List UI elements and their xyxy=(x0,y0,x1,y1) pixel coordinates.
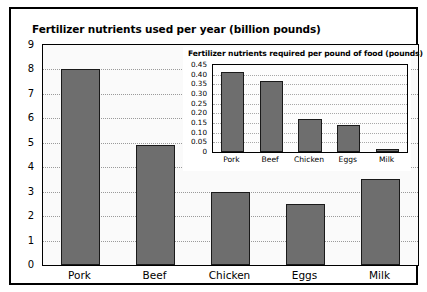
y-axis-tick-label: 2 xyxy=(28,210,34,221)
y-axis-tick-label: 0 xyxy=(28,259,34,270)
x-axis-tick-label: Eggs xyxy=(339,155,357,164)
inset-chart: Fertilizer nutrients required per pound … xyxy=(183,47,411,171)
y-axis-tick-label: 0.15 xyxy=(191,118,207,127)
y-axis-tick-label: 6 xyxy=(28,112,34,123)
y-axis-tick-label: 0.45 xyxy=(191,60,207,69)
main-x-axis: PorkBeefChickenEggsMilk xyxy=(42,269,419,287)
bar xyxy=(337,125,360,152)
y-axis-tick-label: 0.05 xyxy=(191,137,207,146)
y-axis-tick-label: 3 xyxy=(28,185,34,196)
inset-chart-title: Fertilizer nutrients required per pound … xyxy=(188,49,423,58)
y-axis-tick-label: 0.40 xyxy=(191,69,207,78)
y-axis-tick-label: 0.30 xyxy=(191,89,207,98)
y-axis-tick-label: 9 xyxy=(28,39,34,50)
bar xyxy=(286,204,325,265)
inset-plot-area xyxy=(212,64,408,153)
y-axis-tick-label: 0 xyxy=(202,147,207,156)
bar xyxy=(361,179,400,265)
x-axis-tick-label: Chicken xyxy=(209,269,251,281)
y-axis-tick-label: 0.10 xyxy=(191,127,207,136)
main-y-axis: 0123456789 xyxy=(11,44,39,266)
inset-y-axis: 00.050.100.150.200.250.300.350.400.45 xyxy=(183,64,210,153)
bar xyxy=(260,81,283,152)
x-axis-tick-label: Pork xyxy=(68,269,91,281)
main-chart-title: Fertilizer nutrients used per year (bill… xyxy=(32,23,321,35)
x-axis-tick-label: Eggs xyxy=(292,269,317,281)
bar xyxy=(211,192,250,265)
y-axis-tick-label: 4 xyxy=(28,161,34,172)
y-axis-tick-label: 8 xyxy=(28,63,34,74)
x-axis-tick-label: Milk xyxy=(369,269,390,281)
y-axis-tick-label: 5 xyxy=(28,136,34,147)
x-axis-tick-label: Milk xyxy=(379,155,394,164)
x-axis-tick-label: Beef xyxy=(262,155,279,164)
bar xyxy=(61,69,100,265)
x-axis-tick-label: Beef xyxy=(143,269,167,281)
y-axis-tick-label: 0.25 xyxy=(191,98,207,107)
y-axis-tick-label: 0.20 xyxy=(191,108,207,117)
y-axis-tick-label: 0.35 xyxy=(191,79,207,88)
inset-x-axis: PorkBeefChickenEggsMilk xyxy=(212,155,408,169)
bar xyxy=(136,145,175,265)
x-axis-tick-label: Pork xyxy=(223,155,239,164)
chart-figure: Fertilizer nutrients used per year (bill… xyxy=(0,0,427,292)
x-axis-tick-label: Chicken xyxy=(294,155,324,164)
y-axis-tick-label: 1 xyxy=(28,234,34,245)
bar xyxy=(221,72,244,152)
y-axis-tick-label: 7 xyxy=(28,87,34,98)
bar xyxy=(376,149,399,152)
bar xyxy=(298,119,321,152)
figure-frame: Fertilizer nutrients used per year (bill… xyxy=(9,7,418,285)
